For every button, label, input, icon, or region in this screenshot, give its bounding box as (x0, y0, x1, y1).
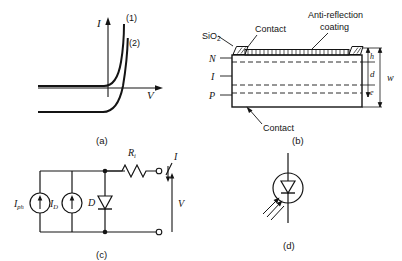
label-diode: D (87, 197, 96, 208)
diode-symbol (281, 173, 295, 203)
device-structure-drawing: SiO2 Contact Anti-reflection coating Con… (200, 0, 402, 136)
diode-branch (98, 171, 112, 232)
curve-1-label: (1) (126, 13, 137, 23)
panel-d-circuit-symbol: (d) (200, 135, 402, 261)
curve-1-dark (38, 24, 124, 86)
curve-2-label: (2) (129, 38, 140, 48)
x-axis-label: V (147, 89, 155, 101)
label-dim-h: h (370, 52, 374, 61)
equivalent-circuit-drawing: Iph ID D Ri I V (0, 135, 200, 261)
label-sio2: SiO2 (202, 31, 221, 42)
leader-antireflection (312, 33, 328, 49)
photocurrent-source-branch (30, 171, 50, 232)
contact-pad-right (349, 47, 363, 55)
y-axis-label: I (96, 17, 102, 29)
label-layer-p: P (208, 90, 215, 101)
terminal-top (156, 168, 162, 174)
iv-curve-plot: I V (1) (2) (0, 0, 200, 135)
contact-pad-left (233, 47, 248, 55)
label-contact-bottom: Contact (263, 123, 295, 133)
label-antireflection-line1: Anti-reflection (308, 10, 363, 20)
leader-contact-top (247, 35, 257, 48)
layer-ticks (220, 58, 232, 95)
label-voltage: V (178, 198, 186, 209)
label-dim-w: w (387, 72, 394, 83)
photodiode-figure: I V (1) (2) (a) (0, 0, 402, 261)
panel-c-equivalent-circuit: Iph ID D Ri I V (c) (0, 135, 200, 261)
terminal-bottom (156, 229, 162, 235)
layer-boundaries (232, 62, 362, 93)
label-layer-i: I (210, 71, 215, 82)
label-current: I (173, 151, 178, 162)
node-bottom (103, 230, 108, 235)
curve-2-illuminated (38, 38, 128, 112)
caption-d: (d) (283, 241, 295, 251)
current-arrow (166, 163, 172, 182)
anti-reflection-coating-layer (245, 50, 349, 56)
label-dim-e: e (370, 88, 374, 97)
label-dim-d: d (370, 69, 375, 79)
panel-a-iv-characteristic: I V (1) (2) (a) (0, 0, 200, 135)
label-iph: Iph (13, 198, 24, 210)
dark-current-source-branch (62, 171, 82, 232)
label-resistor: Ri (127, 147, 136, 159)
series-resistor (105, 165, 157, 177)
caption-c: (c) (96, 250, 107, 260)
photodiode-symbol-drawing (200, 135, 402, 261)
label-layer-n: N (208, 53, 217, 64)
label-contact-top: Contact (255, 24, 287, 34)
label-antireflection-line2: coating (320, 22, 349, 32)
label-id: ID (49, 198, 58, 210)
voltage-arrow (170, 173, 175, 232)
semiconductor-body (232, 55, 362, 107)
panel-b-cross-section: SiO2 Contact Anti-reflection coating Con… (200, 0, 402, 135)
